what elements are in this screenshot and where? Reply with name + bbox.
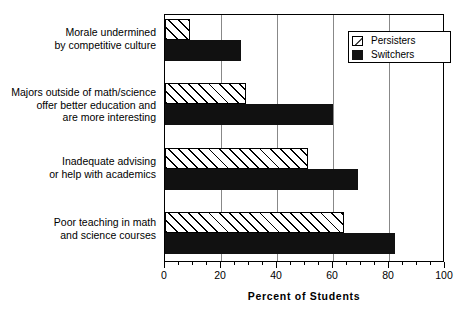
legend-label-persisters: Persisters — [371, 35, 415, 46]
x-tick-minor — [304, 262, 305, 265]
x-tick-minor — [262, 262, 263, 265]
x-tick-major — [332, 262, 333, 268]
category-label-line: or help with academics — [0, 168, 156, 181]
category-label-line: by competitive culture — [0, 39, 156, 52]
category-label-line: and science courses — [0, 229, 156, 242]
category-label-line: Majors outside of math/science — [0, 86, 156, 99]
category-label-line: Poor teaching in math — [0, 216, 156, 229]
category-label-poor-teaching: Poor teaching in math and science course… — [0, 216, 156, 241]
category-label-line: Morale undermined — [0, 26, 156, 39]
x-tick-minor — [318, 262, 319, 265]
legend: Persisters Switchers — [348, 31, 451, 63]
x-tick-minor — [206, 262, 207, 265]
x-axis-title: Percent of Students — [164, 290, 444, 302]
x-tick-minor — [234, 262, 235, 265]
x-tick-label: 100 — [424, 269, 464, 281]
x-tick-minor — [178, 262, 179, 265]
category-label-line: are more interesting — [0, 111, 156, 124]
x-tick-major — [444, 262, 445, 268]
x-tick-minor — [192, 262, 193, 265]
bar-persisters-1 — [165, 19, 190, 40]
legend-label-switchers: Switchers — [371, 49, 414, 60]
x-tick-minor — [416, 262, 417, 265]
x-tick-minor — [290, 262, 291, 265]
x-tick-minor — [360, 262, 361, 265]
category-label-majors-outside: Majors outside of math/science offer bet… — [0, 86, 156, 124]
x-tick-major — [276, 262, 277, 268]
x-tick-minor — [346, 262, 347, 265]
bar-switchers-2 — [165, 104, 333, 125]
bar-switchers-4 — [165, 233, 395, 254]
x-tick-label: 80 — [368, 269, 408, 281]
x-tick-label: 40 — [256, 269, 296, 281]
x-tick-major — [388, 262, 389, 268]
x-tick-major — [220, 262, 221, 268]
legend-swatch-hatched-icon — [352, 36, 363, 46]
category-label-line: Inadequate advising — [0, 155, 156, 168]
x-tick-label: 60 — [312, 269, 352, 281]
bar-persisters-4 — [165, 212, 344, 233]
x-tick-major — [164, 262, 165, 268]
legend-item-persisters: Persisters — [352, 34, 447, 47]
bar-persisters-2 — [165, 83, 246, 104]
legend-swatch-solid-icon — [352, 50, 363, 60]
bar-persisters-3 — [165, 148, 308, 169]
bar-switchers-3 — [165, 169, 358, 190]
category-axis-labels: Morale undermined by competitive culture… — [0, 14, 160, 262]
bar-switchers-1 — [165, 40, 241, 61]
category-label-inadequate-advising: Inadequate advising or help with academi… — [0, 155, 156, 180]
x-tick-minor — [248, 262, 249, 265]
x-tick-label: 0 — [144, 269, 184, 281]
bar-chart: Morale undermined by competitive culture… — [0, 0, 465, 318]
x-tick-label: 20 — [200, 269, 240, 281]
x-tick-minor — [402, 262, 403, 265]
category-label-line: offer better education and — [0, 99, 156, 112]
x-tick-minor — [374, 262, 375, 265]
legend-item-switchers: Switchers — [352, 48, 447, 61]
category-label-morale: Morale undermined by competitive culture — [0, 26, 156, 51]
x-tick-minor — [430, 262, 431, 265]
